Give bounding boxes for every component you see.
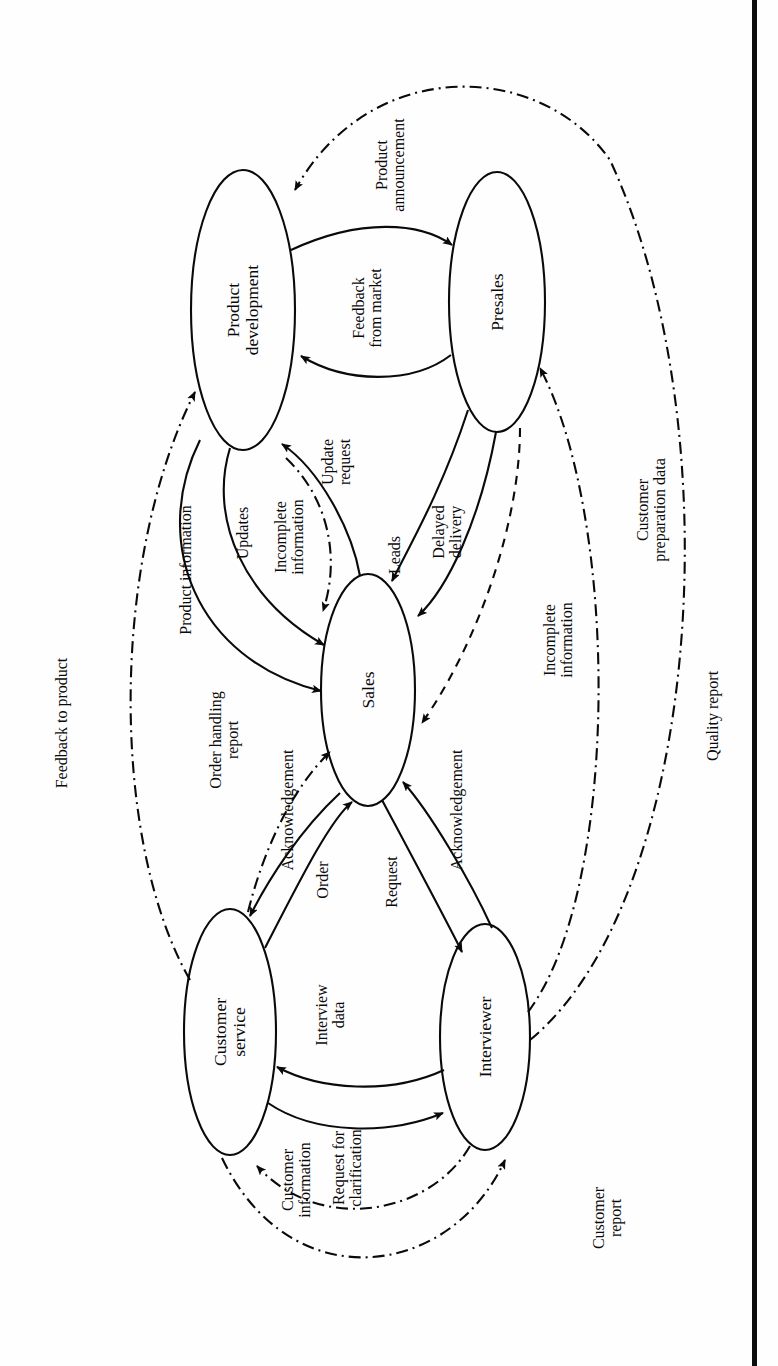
edge-label-incomplete-information-pd: Incomplete information [272,499,307,575]
edge-label-update-request: Update request [319,439,354,485]
edge-label-product-announcement: Product announcement [373,118,408,211]
edge-label-acknowledgement-cs: Acknowledgement [279,750,296,871]
edge-label-acknowledgement-iv: Acknowledgement [448,750,465,871]
edge-incomplete-information-presales [422,428,520,723]
edge-label-interview-data: Interview data [313,984,348,1045]
edge-label-feedback-to-product: Feedback to product [53,658,70,789]
page-edge-artifact [752,0,757,1366]
edge-label-customer-report: Customer report [590,1187,625,1249]
edge-label-request-for-clarification: Request for clarification [330,1129,365,1206]
edge-feedback-from-market [301,355,451,377]
edge-product-announcement [291,227,452,250]
node-label-customer-service: Customer service [211,998,249,1066]
edge-interview-data [277,1067,444,1087]
edge-label-order: Order [314,861,331,898]
edge-customer-preparation-data [528,368,599,1012]
edge-label-leads: Leads [386,536,403,574]
edge-label-delayed-delivery: Delayed delivery [430,505,465,558]
edge-label-incomplete-information-presales: Incomplete information [541,602,576,678]
edge-label-product-information: Product information [177,505,194,634]
edge-label-quality-report: Quality report [704,671,721,761]
node-label-product-development: Product development [224,265,262,355]
figure-page: Product development Presales Sales Custo… [0,0,778,1366]
node-label-presales: Presales [488,273,507,330]
edge-label-request: Request [383,856,400,908]
edge-order [265,802,352,948]
node-label-interviewer: Interviewer [476,997,495,1078]
edge-label-order-handling-report: Order handling report [207,691,242,788]
edge-label-feedback-from-market: Feedback from market [350,268,385,348]
node-label-sales: Sales [359,672,378,709]
edge-label-customer-preparation-data: Customer preparation data [634,458,669,562]
edge-label-customer-information: Customer information [279,1142,314,1218]
edge-request-for-clarification [268,1103,443,1128]
edge-label-updates: Updates [234,507,251,559]
